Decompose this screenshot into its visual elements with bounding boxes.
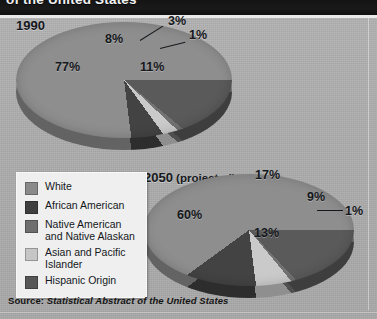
legend-item-hispanic: Hispanic Origin: [25, 275, 139, 289]
legend-label-native-american: Native American and Native Alaskan: [45, 219, 139, 242]
figure-container: of the United States 77% 8% 3% 1% 11% 19…: [0, 0, 377, 319]
pie-1990-label-asian-pacific: 3%: [168, 14, 186, 28]
legend-label-hispanic: Hispanic Origin: [45, 275, 116, 287]
pie-1990-label-hispanic: 11%: [140, 60, 164, 74]
page-title: of the United States: [6, 0, 137, 7]
legend-label-asian-pacific: Asian and Pacific Islander: [45, 247, 139, 270]
legend-item-african-american: African American: [25, 200, 139, 214]
pie-1990-label-white: 77%: [55, 60, 80, 74]
source-title: Statistical Abstract of the United State…: [47, 295, 229, 306]
legend-label-african-american: African American: [45, 200, 124, 212]
legend-swatch-white: [25, 182, 38, 195]
legend-swatch-hispanic: [25, 276, 38, 289]
pie-2050-label-white: 60%: [177, 208, 202, 222]
legend-swatch-asian-pacific: [25, 248, 38, 261]
legend-label-white: White: [45, 181, 72, 193]
pie-1990-label-african-american: 8%: [105, 32, 123, 46]
pie-2050-label-hispanic: 13%: [254, 226, 279, 240]
frame-rule-right: [368, 18, 369, 310]
legend-item-native-american: Native American and Native Alaskan: [25, 219, 139, 242]
legend-item-white: White: [25, 181, 139, 195]
frame-rule-bottom: [0, 312, 377, 313]
legend: White African American Native American a…: [16, 172, 147, 298]
legend-swatch-african-american: [25, 201, 38, 214]
figure-title-bar: of the United States: [0, 0, 377, 15]
leader-line-native-2050: [317, 210, 343, 211]
pie-2050-label-asian-pacific: 9%: [307, 190, 325, 204]
pie-chart-2050: 60% 17% 9% 1% 13% 2050 (projected): [144, 168, 360, 298]
legend-swatch-native-american: [25, 220, 38, 233]
source-note: Source: Statistical Abstract of the Unit…: [8, 295, 228, 306]
pie-1990-label-native-american: 1%: [189, 28, 207, 42]
pie-chart-1990: 77% 8% 3% 1% 11% 1990: [16, 16, 232, 156]
pie-2050-label-african-american: 17%: [255, 168, 280, 182]
legend-item-asian-pacific: Asian and Pacific Islander: [25, 247, 139, 270]
pie-2050-label-native-american: 1%: [345, 204, 363, 218]
source-prefix: Source:: [8, 295, 47, 306]
